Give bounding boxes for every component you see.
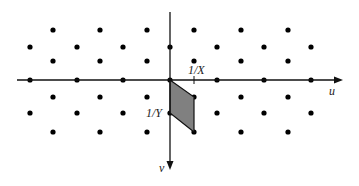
lattice-point: [214, 110, 219, 115]
y-tick-label: 1/Y: [146, 106, 163, 120]
lattice-point: [74, 44, 79, 49]
lattice-point: [50, 27, 55, 32]
v-axis-label: v: [159, 161, 165, 175]
lattice-point: [144, 27, 149, 32]
lattice-point: [97, 94, 102, 99]
lattice-point: [238, 94, 243, 99]
lattice-point: [191, 27, 196, 32]
lattice-point: [285, 129, 290, 134]
x-tick-label: 1/X: [188, 63, 205, 77]
lattice-point: [120, 110, 125, 115]
lattice-point: [97, 129, 102, 134]
u-axis-label: u: [329, 84, 335, 98]
lattice-point: [144, 58, 149, 63]
lattice-point: [214, 44, 219, 49]
lattice-point: [285, 58, 290, 63]
lattice-point: [238, 27, 243, 32]
lattice-point: [27, 110, 32, 115]
lattice-point: [120, 44, 125, 49]
lattice-diagram: 1/X 1/Y u v: [0, 0, 359, 186]
lattice-point: [50, 94, 55, 99]
lattice-point: [97, 27, 102, 32]
lattice-point: [261, 44, 266, 49]
lattice-point: [238, 58, 243, 63]
lattice-point: [285, 27, 290, 32]
lattice-point: [74, 110, 79, 115]
lattice-point: [261, 110, 266, 115]
lattice-point: [50, 129, 55, 134]
v-axis-arrowhead: [167, 161, 174, 170]
fundamental-parallelogram: [170, 80, 194, 132]
lattice-point: [97, 58, 102, 63]
lattice-point: [308, 110, 313, 115]
lattice-point: [308, 44, 313, 49]
lattice-point: [27, 44, 32, 49]
lattice-point: [238, 129, 243, 134]
lattice-point: [285, 94, 290, 99]
lattice-point: [144, 129, 149, 134]
lattice-point: [144, 94, 149, 99]
u-axis-arrowhead: [334, 77, 343, 84]
lattice-point: [50, 58, 55, 63]
